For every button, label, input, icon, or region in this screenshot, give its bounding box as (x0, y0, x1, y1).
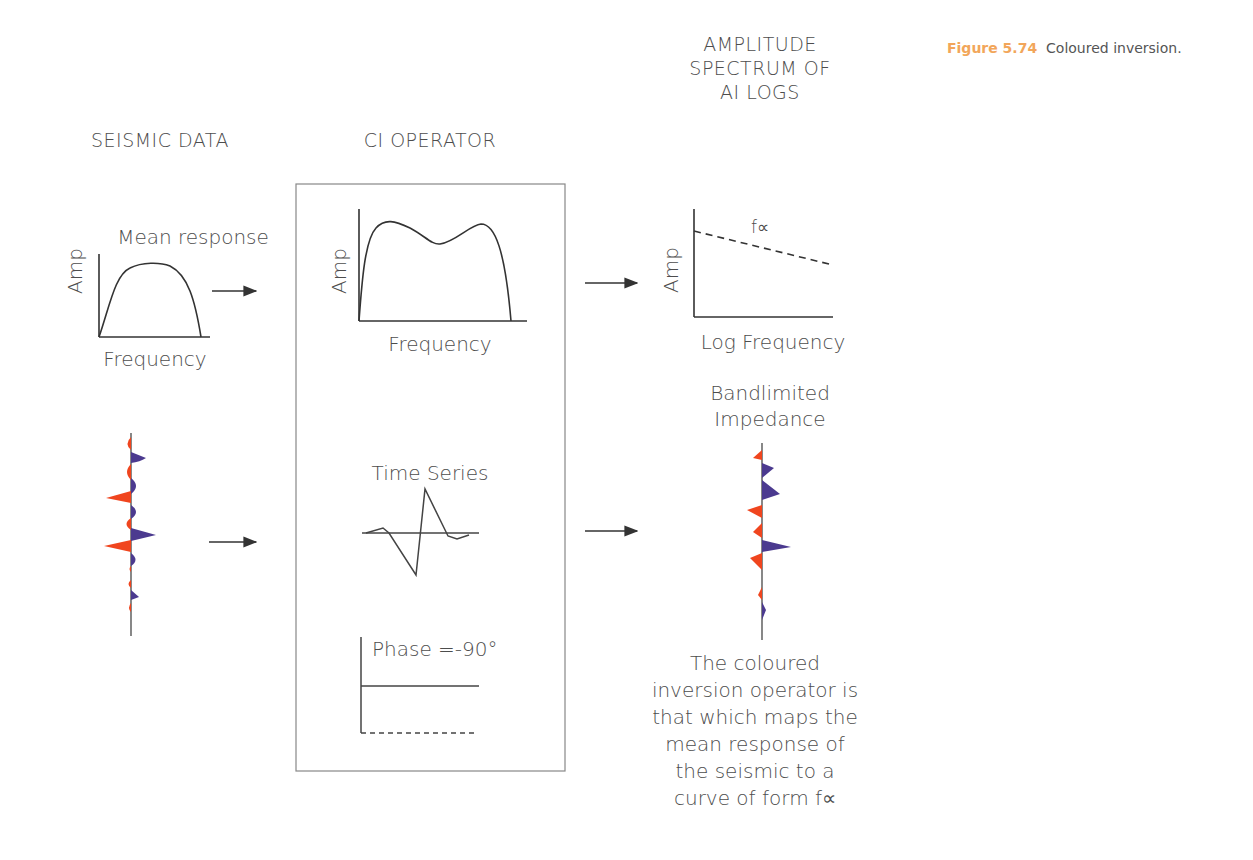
time-series-plot (362, 489, 479, 575)
mean-response-plot (99, 254, 210, 337)
bandlimited-impedance-trace (747, 443, 791, 640)
ai-log-spectrum-plot (694, 209, 833, 317)
phase-plot (361, 637, 479, 733)
ci-operator-box (296, 184, 565, 771)
ci-operator-spectrum-plot (359, 209, 527, 321)
seismic-trace (104, 433, 156, 636)
diagram-graphics (0, 0, 1253, 860)
